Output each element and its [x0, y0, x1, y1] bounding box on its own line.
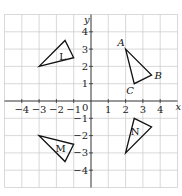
x-axis-label: x — [176, 101, 182, 112]
triangle-label: L — [59, 51, 66, 62]
y-tick-label: 4 — [82, 26, 88, 37]
vertex-label: B — [154, 70, 162, 81]
x-tick-label: −2 — [49, 104, 64, 115]
y-tick-label: 3 — [82, 44, 88, 55]
y-tick-label: −3 — [73, 147, 88, 158]
y-axis-label: y — [83, 14, 90, 25]
y-tick-label: −4 — [73, 165, 88, 176]
axes: xy0 — [5, 14, 182, 188]
y-tick-label: −2 — [73, 130, 88, 141]
triangle-label: M — [56, 143, 66, 154]
origin-label: 0 — [82, 102, 88, 113]
x-tick-label: 3 — [140, 104, 146, 115]
x-tick-label: −4 — [14, 104, 29, 115]
x-tick-label: −3 — [32, 104, 47, 115]
y-tick-label: −1 — [73, 113, 88, 124]
x-tick-label: 2 — [122, 104, 128, 115]
y-tick-label: 2 — [82, 61, 88, 72]
x-tick-label: 4 — [157, 104, 163, 115]
triangles: ABCLMN — [39, 37, 162, 161]
y-tick-label: 1 — [82, 78, 88, 89]
vertex-label: A — [117, 37, 125, 48]
coordinate-plane: xy0 −4−3−2−112344321−1−2−3−4 ABCLMN — [0, 0, 181, 196]
triangle-label: N — [131, 126, 140, 137]
x-tick-label: 1 — [105, 104, 111, 115]
vertex-label: C — [126, 85, 134, 96]
